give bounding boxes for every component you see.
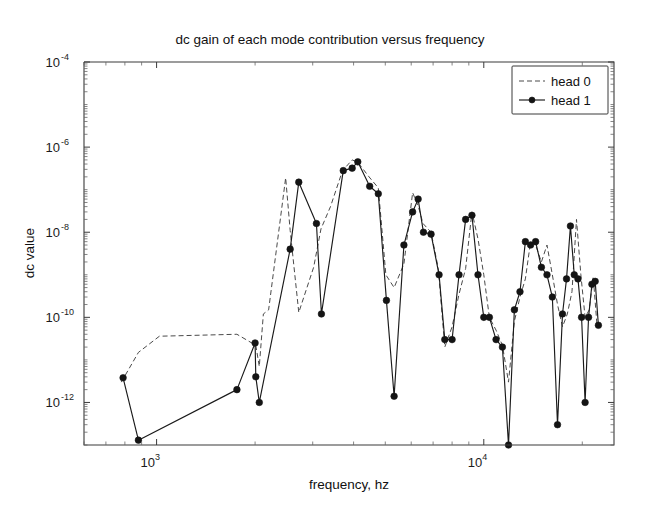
data-point <box>287 246 294 253</box>
data-point <box>559 311 566 318</box>
data-point <box>582 399 589 406</box>
data-point <box>409 209 416 216</box>
data-point <box>499 344 506 351</box>
data-point <box>252 340 259 347</box>
chart-title: dc gain of each mode contribution versus… <box>175 32 484 47</box>
tick-label: 10-10 <box>46 307 74 325</box>
data-point <box>318 311 325 318</box>
data-point <box>349 165 356 172</box>
svg-text:-12: -12 <box>61 392 74 402</box>
data-point <box>544 271 551 278</box>
series-line-head-0 <box>121 160 597 382</box>
legend-marker-head-1 <box>529 97 535 103</box>
data-point <box>517 288 524 295</box>
svg-text:10: 10 <box>468 455 482 470</box>
svg-text:-4: -4 <box>61 52 69 62</box>
tick-label: 10-4 <box>46 52 69 70</box>
y-axis-title: dc value <box>22 228 37 278</box>
data-point <box>135 437 142 444</box>
data-point <box>420 229 427 236</box>
chart-canvas: dc gain of each mode contribution versus… <box>0 0 645 516</box>
svg-text:-6: -6 <box>61 137 69 147</box>
data-point <box>354 159 361 166</box>
svg-text:-8: -8 <box>61 222 69 232</box>
data-point <box>549 294 556 301</box>
tick-label: 10-6 <box>46 137 69 155</box>
svg-text:10: 10 <box>46 310 60 325</box>
data-point <box>401 242 408 249</box>
data-point <box>511 307 518 314</box>
legend[interactable]: head 0 head 1 <box>512 66 608 114</box>
axis-frame <box>84 62 614 445</box>
data-point <box>366 183 373 190</box>
tick-label: 10-12 <box>46 392 74 410</box>
data-point <box>383 297 390 304</box>
svg-text:10: 10 <box>46 225 60 240</box>
tick-label: 103 <box>141 452 161 470</box>
data-point <box>475 271 482 278</box>
data-point <box>234 386 241 393</box>
data-point <box>428 231 435 238</box>
data-point <box>415 196 422 203</box>
data-point <box>295 179 302 186</box>
chart-figure: dc gain of each mode contribution versus… <box>0 0 645 516</box>
data-point <box>375 190 382 197</box>
series-line-head-1 <box>123 162 598 445</box>
data-point <box>256 399 263 406</box>
axes <box>84 62 614 445</box>
plot-area <box>120 159 602 449</box>
data-point <box>253 374 260 381</box>
data-point <box>462 216 469 223</box>
legend-label-head-1: head 1 <box>551 93 591 108</box>
data-point <box>340 167 347 174</box>
data-point <box>449 336 456 343</box>
svg-text:10: 10 <box>46 140 60 155</box>
data-point <box>456 271 463 278</box>
svg-text:4: 4 <box>482 452 487 462</box>
data-point <box>538 264 545 271</box>
data-point <box>592 278 599 285</box>
data-point <box>391 393 398 400</box>
data-point <box>532 238 539 245</box>
svg-text:10: 10 <box>46 395 60 410</box>
data-point <box>441 336 448 343</box>
data-point <box>313 220 320 227</box>
data-point <box>469 212 476 219</box>
data-point <box>493 336 500 343</box>
data-point <box>578 314 585 321</box>
tick-marks <box>84 62 614 445</box>
svg-text:3: 3 <box>155 452 160 462</box>
svg-text:10: 10 <box>46 55 60 70</box>
data-point <box>436 271 443 278</box>
data-point <box>120 374 127 381</box>
tick-label: 10-8 <box>46 222 69 240</box>
data-point <box>585 314 592 321</box>
data-point <box>563 276 570 283</box>
tick-labels: 10310410-410-610-810-1010-12 <box>46 52 488 470</box>
svg-text:10: 10 <box>141 455 155 470</box>
legend-label-head-0: head 0 <box>551 74 591 89</box>
data-point <box>567 223 574 230</box>
tick-label: 104 <box>468 452 488 470</box>
svg-text:-10: -10 <box>61 307 74 317</box>
data-point <box>595 322 602 329</box>
data-point <box>554 421 561 428</box>
data-point <box>575 276 582 283</box>
x-axis-title: frequency, hz <box>309 477 389 492</box>
data-point <box>486 314 493 321</box>
